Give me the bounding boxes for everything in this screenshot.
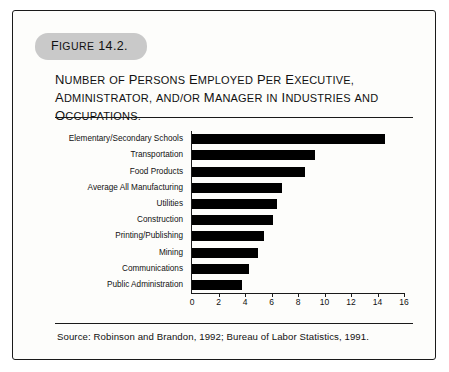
category-label: Food Products xyxy=(130,167,183,176)
x-axis-tick-label: 2 xyxy=(211,297,227,307)
category-label: Elementary/Secondary Schools xyxy=(69,134,183,143)
bar xyxy=(192,215,273,225)
category-label: Mining xyxy=(159,248,183,257)
category-axis-labels: Elementary/Secondary SchoolsTransportati… xyxy=(51,131,187,293)
bar xyxy=(192,150,315,160)
chart-plot-wrapper: Elementary/Secondary SchoolsTransportati… xyxy=(51,131,419,311)
figure-number-label: FIGURE 14.2. xyxy=(51,39,128,53)
category-label: Transportation xyxy=(131,150,184,159)
bar xyxy=(192,167,305,177)
category-label: Public Administration xyxy=(107,280,183,289)
bar xyxy=(192,199,277,209)
source-note: Source: Robinson and Brandon, 1992; Bure… xyxy=(57,331,369,342)
category-label: Communications xyxy=(122,264,183,273)
bar xyxy=(192,183,282,193)
x-axis-tick-label: 16 xyxy=(396,297,412,307)
source-divider xyxy=(55,323,413,324)
bar xyxy=(192,248,258,258)
category-label: Utilities xyxy=(157,199,183,208)
bar xyxy=(192,134,385,144)
bar xyxy=(192,280,242,290)
bar xyxy=(192,231,264,241)
category-label: Average All Manufacturing xyxy=(88,183,183,192)
category-label: Printing/Publishing xyxy=(115,231,183,240)
bar-chart-plot-area: 0246810121416 xyxy=(191,131,404,294)
x-axis-tick-label: 6 xyxy=(264,297,280,307)
x-axis-tick-label: 14 xyxy=(370,297,386,307)
x-axis-tick-label: 0 xyxy=(184,297,200,307)
x-axis-tick-label: 12 xyxy=(343,297,359,307)
x-axis-tick-label: 4 xyxy=(237,297,253,307)
bar xyxy=(192,264,249,274)
figure-card: FIGURE 14.2. NUMBER OF PERSONS EMPLOYED … xyxy=(12,10,436,360)
title-divider xyxy=(55,117,413,118)
x-axis-tick-label: 8 xyxy=(290,297,306,307)
x-axis-tick-label: 10 xyxy=(317,297,333,307)
category-label: Construction xyxy=(137,215,183,224)
